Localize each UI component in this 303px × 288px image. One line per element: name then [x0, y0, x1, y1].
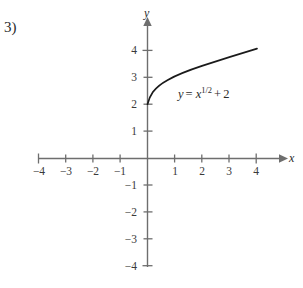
x-tick-label-minus4: −4 [29, 166, 49, 178]
y-tick-label-minus1: −1 [117, 180, 137, 192]
y-tick-label-1: 1 [121, 126, 137, 138]
equation-annotation: y=x1/2+2 [178, 86, 229, 101]
x-tick-label-4: 4 [246, 166, 266, 178]
x-tick-label-minus2: −2 [83, 166, 103, 178]
y-tick-label-2: 2 [121, 99, 137, 111]
x-tick-label-2: 2 [192, 166, 212, 178]
equation-plus: + [214, 87, 221, 101]
x-axis-arrow-icon [279, 154, 288, 162]
x-tick-label-minus1: −1 [110, 166, 130, 178]
x-tick-label-minus3: −3 [56, 166, 76, 178]
graph-figure [0, 0, 303, 288]
y-tick-label-minus2: −2 [117, 207, 137, 219]
y-tick-label-4: 4 [121, 45, 137, 57]
y-tick-label-3: 3 [121, 72, 137, 84]
y-axis-label: y [144, 7, 149, 19]
equation-exponent: 1/2 [201, 85, 212, 95]
x-tick-label-3: 3 [219, 166, 239, 178]
x-tick-label-1: 1 [165, 166, 185, 178]
equation-equals: = [186, 87, 193, 101]
equation-constant: 2 [223, 87, 229, 101]
y-tick-label-minus4: −4 [117, 261, 137, 273]
equation-lhs: y [178, 87, 184, 101]
x-axis-label: x [289, 152, 294, 164]
y-tick-label-minus3: −3 [117, 234, 137, 246]
